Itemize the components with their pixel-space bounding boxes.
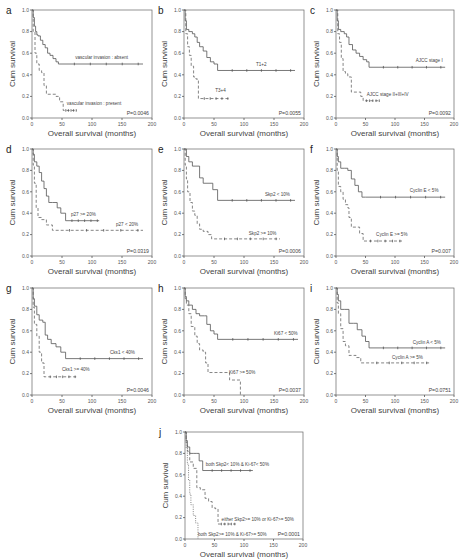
y-tick-label: 1.0	[175, 429, 182, 435]
curve-label: Cyclin A >= 5%	[392, 355, 423, 360]
y-tick-label: 0.0	[326, 253, 333, 259]
x-tick-label: 200	[450, 259, 459, 265]
panel-i: i0.00.20.40.60.81.0050100150200Overall s…	[310, 283, 458, 415]
x-tick-label: 200	[300, 398, 309, 404]
x-axis-label: Overall survival (months)	[200, 129, 289, 138]
x-axis-label: Overall survival (months)	[200, 550, 289, 559]
x-axis-label: Overall survival (months)	[200, 406, 289, 415]
x-axis-label: Overall survival (months)	[351, 267, 440, 276]
curve-label: Cyclin E < 5%	[410, 188, 439, 193]
curve-label: Ki67 >= 50%	[229, 370, 255, 375]
plot-frame	[184, 288, 304, 395]
y-tick-label: 0.2	[22, 231, 29, 237]
y-axis-label: Cum survival	[8, 318, 17, 364]
y-tick-label: 0.6	[326, 328, 333, 334]
x-tick-label: 150	[118, 398, 127, 404]
p-value: P=0.0092	[429, 110, 451, 116]
y-tick-label: 0.4	[22, 72, 29, 78]
panel-c: c0.00.20.40.60.81.0050100150200Overall s…	[310, 5, 458, 138]
y-tick-label: 0.2	[326, 93, 333, 99]
plot-frame	[184, 149, 304, 256]
curve-label: both Skp2< 10% & Ki-67< 50%	[206, 462, 269, 467]
curve-label: Skp2 >= 10%	[249, 231, 277, 236]
curve-label: both Skp2>= 10% & Ki-67>= 50%	[198, 532, 267, 537]
y-tick-label: 0.0	[22, 392, 29, 398]
y-tick-label: 0.0	[22, 253, 29, 259]
y-tick-label: 0.2	[174, 93, 181, 99]
x-tick-label: 50	[363, 398, 369, 404]
y-tick-label: 0.2	[22, 93, 29, 99]
p-value: P=0.0037	[279, 387, 301, 393]
y-tick-label: 0.8	[22, 28, 29, 34]
survival-curve-dashed	[32, 149, 143, 230]
x-tick-label: 50	[59, 398, 65, 404]
x-axis-label: Overall survival (months)	[48, 406, 137, 415]
plot-frame	[336, 149, 454, 256]
x-tick-label: 150	[420, 121, 429, 127]
panel-e: e0.00.20.40.60.81.0050100150200Overall s…	[158, 144, 308, 276]
x-tick-label: 0	[183, 121, 186, 127]
x-tick-label: 50	[363, 259, 369, 265]
y-tick-label: 0.8	[174, 167, 181, 173]
panel-letter: f	[310, 144, 313, 155]
x-tick-label: 0	[335, 121, 338, 127]
y-axis-label: Cum survival	[312, 41, 321, 87]
y-tick-label: 1.0	[326, 285, 333, 291]
x-tick-label: 100	[391, 398, 400, 404]
x-tick-label: 0	[31, 398, 34, 404]
x-tick-label: 100	[391, 121, 400, 127]
x-tick-label: 150	[420, 259, 429, 265]
x-tick-label: 200	[299, 542, 308, 548]
y-axis-label: Cum survival	[161, 462, 170, 508]
survival-curve-dashed	[336, 288, 430, 363]
x-tick-label: 100	[240, 398, 249, 404]
y-tick-label: 0.2	[175, 514, 182, 520]
panel-letter: c	[310, 5, 315, 16]
survival-curve-solid	[32, 149, 99, 221]
y-tick-label: 1.0	[174, 146, 181, 152]
panel-h: h0.00.20.40.60.81.0050100150200Overall s…	[158, 283, 308, 415]
survival-curve-dashed	[32, 288, 77, 377]
y-tick-label: 0.0	[326, 115, 333, 121]
x-tick-label: 100	[88, 398, 97, 404]
panel-d: d0.00.20.40.60.81.0050100150200Overall s…	[6, 144, 156, 276]
plot-frame	[32, 288, 152, 395]
survival-curve-dashed	[185, 432, 236, 524]
x-tick-label: 0	[31, 121, 34, 127]
curve-label: vascular invasion : absent	[75, 55, 129, 60]
x-tick-label: 50	[211, 259, 217, 265]
y-tick-label: 0.6	[22, 50, 29, 56]
y-tick-label: 0.4	[326, 210, 333, 216]
panel-letter: j	[158, 427, 161, 438]
x-tick-label: 200	[148, 259, 157, 265]
x-tick-label: 200	[300, 259, 309, 265]
y-tick-label: 0.8	[326, 28, 333, 34]
x-tick-label: 100	[240, 121, 249, 127]
y-tick-label: 0.2	[326, 370, 333, 376]
y-tick-label: 1.0	[326, 146, 333, 152]
p-value: P=0.0055	[279, 110, 301, 116]
survival-curve-dashed	[184, 288, 240, 395]
x-tick-label: 50	[59, 259, 65, 265]
panel-letter: i	[310, 283, 312, 294]
curve-label: AJCC stage I	[416, 58, 443, 63]
y-tick-label: 0.8	[175, 450, 182, 456]
panel-j: j0.00.20.40.60.81.0050100150200Overall s…	[158, 427, 307, 559]
y-tick-label: 1.0	[174, 285, 181, 291]
survival-curve-dotted	[185, 432, 198, 539]
y-tick-label: 0.2	[326, 231, 333, 237]
y-tick-label: 0.8	[326, 167, 333, 173]
x-tick-label: 100	[240, 542, 249, 548]
x-tick-label: 100	[391, 259, 400, 265]
panel-letter: a	[6, 5, 12, 16]
plot-frame	[185, 432, 303, 539]
curve-label: p27 >= 20%	[71, 212, 96, 217]
y-tick-label: 1.0	[22, 146, 29, 152]
y-tick-label: 0.2	[174, 231, 181, 237]
x-tick-label: 200	[148, 398, 157, 404]
y-tick-label: 0.8	[326, 306, 333, 312]
y-tick-label: 0.4	[175, 493, 182, 499]
y-tick-label: 0.6	[22, 189, 29, 195]
x-tick-label: 0	[335, 398, 338, 404]
plot-frame	[184, 10, 304, 118]
